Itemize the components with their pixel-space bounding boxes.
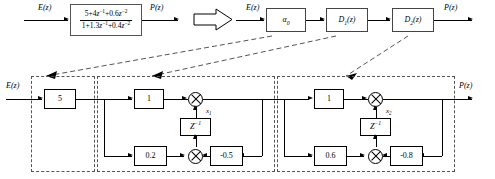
bottom-output-label: P(z) [459, 82, 472, 90]
stage2-forward-arrow [308, 96, 313, 100]
top-left-input-wire [24, 20, 68, 21]
top-left-output-arrow [174, 17, 179, 21]
gain-5-label: 5 [58, 95, 62, 103]
stage1-feedforward-gain-block: 0.2 [134, 146, 167, 166]
stage2-output-wire [383, 99, 472, 100]
stage1-branch-down-wire [104, 99, 105, 156]
block-arrow-right-icon [194, 9, 232, 30]
bottom-output-arrow [468, 96, 473, 100]
d2-block: D2(z) [392, 8, 434, 32]
guide-line-d1 [152, 36, 336, 76]
stage1-forward-arrow [128, 96, 133, 100]
bottom-input-arrow [38, 96, 43, 100]
d1-label: D1(z) [338, 16, 355, 24]
top-left-input-label: E(z) [38, 4, 51, 12]
stage2-state-label: x2 [386, 108, 392, 115]
stage1-output-wire [203, 99, 309, 100]
top-right-output-wire [434, 20, 472, 21]
top-left-output-label: P(z) [150, 4, 163, 12]
stage1-feedforward-gain-label: 0.2 [146, 152, 156, 160]
stage1-forward-gain-label: 1 [147, 95, 151, 103]
stage2-forward-gain-block: 1 [314, 89, 344, 109]
transfer-function-block: 5+4z−1+0.6z−2 1+1.3z−1+0.4z−2 [70, 4, 142, 36]
stage2-delay-label: Z−1 [370, 123, 381, 131]
block-diagram-canvas: E(z) 5+4z−1+0.6z−2 1+1.3z−1+0.4z−2 P(z) … [0, 0, 495, 179]
gain-5-block: 5 [44, 89, 76, 109]
alpha0-to-d1-arrow [320, 17, 325, 21]
stage2-junction-input-arrow [362, 96, 367, 100]
stage1-02-input-arrow [128, 153, 133, 157]
stage2-08-to-junction-arrow [382, 153, 387, 157]
stage2-feedback-gain-block: -0.8 [390, 146, 423, 166]
stage1-02-to-junction-arrow [180, 153, 185, 157]
stage2-bottom-junction [368, 149, 383, 164]
stage2-feedback-wire [423, 156, 442, 157]
stage1-junction-input-arrow [182, 96, 187, 100]
stage2-06-input-arrow [308, 153, 313, 157]
top-left-output-wire [142, 20, 178, 21]
stage1-forward-gain-block: 1 [134, 89, 164, 109]
stage1-delay-out-arrow [193, 105, 197, 110]
d1-block: D1(z) [326, 8, 368, 32]
top-left-input-arrow [64, 17, 69, 21]
top-right-input-arrow [260, 17, 265, 21]
stage1-feedback-wire [243, 156, 262, 157]
stage2-06-to-junction-arrow [360, 153, 365, 157]
guide-line-alpha0 [46, 36, 272, 76]
transfer-function-denominator: 1+1.3z−1+0.4z−2 [80, 20, 132, 30]
top-right-output-label: P(z) [444, 4, 457, 12]
stage1-feedback-gain-label: -0.5 [220, 152, 233, 160]
stage2-feedforward-gain-label: 0.6 [326, 152, 336, 160]
bottom-input-wire [6, 99, 42, 100]
stage1-delay-label: Z−1 [190, 123, 201, 131]
guide-line-d2 [346, 36, 408, 76]
alpha0-block: α0 [266, 8, 306, 32]
stage2-forward-gain-label: 1 [327, 95, 331, 103]
stage1-state-label: x1 [206, 108, 212, 115]
top-right-input-label: E(z) [246, 4, 259, 12]
stage2-feedback-gain-label: -0.8 [400, 152, 413, 160]
stage2-feedback-tap-wire [442, 99, 443, 156]
top-right-output-arrow [468, 17, 473, 21]
stage2-branch-down-wire [284, 99, 285, 156]
stage1-feedback-gain-block: -0.5 [210, 146, 243, 166]
stage1-delay-in-arrow [193, 134, 197, 139]
stage2-delay-out-arrow [373, 105, 377, 110]
d2-label: D2(z) [404, 16, 421, 24]
bottom-input-label: E(z) [6, 82, 19, 90]
stage1-05-to-junction-arrow [202, 153, 207, 157]
stage2-feedforward-gain-block: 0.6 [314, 146, 347, 166]
d1-to-d2-arrow [386, 17, 391, 21]
alpha0-label: α0 [282, 16, 289, 24]
stage1-feedback-tap-wire [262, 99, 263, 156]
stage2-delay-in-arrow [373, 134, 377, 139]
stage1-bottom-junction [188, 149, 203, 164]
